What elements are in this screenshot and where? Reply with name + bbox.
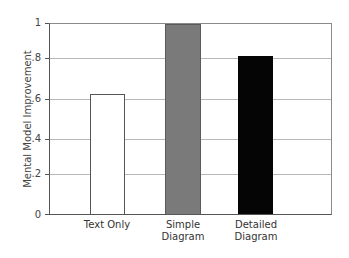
x-label-detailed-diagram: Detailed Diagram	[221, 219, 291, 243]
y-tick-label-0.6: .6	[27, 94, 41, 104]
y-tick-label-0.2: .2	[27, 169, 41, 179]
y-tick-label-0: 0	[27, 210, 41, 220]
x-label-simple-diagram: Simple Diagram	[148, 219, 218, 243]
y-tick-label-0.4: .4	[27, 134, 41, 144]
y-tick-label-1: 1	[27, 18, 41, 28]
bar-text-only	[90, 94, 125, 214]
y-tick-label-0.8: .8	[27, 53, 41, 63]
bar-chart: Mental Model Improvement 1 .8 .6 .4 .2 0…	[0, 0, 349, 258]
plot-area	[49, 23, 332, 215]
bar-detailed-diagram	[238, 56, 273, 214]
x-label-text-only: Text Only	[72, 219, 142, 231]
bar-simple-diagram	[165, 24, 201, 214]
